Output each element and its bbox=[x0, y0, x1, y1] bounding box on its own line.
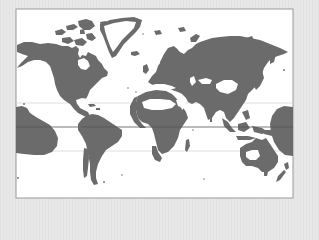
world-map bbox=[0, 0, 309, 209]
sri-lanka bbox=[210, 118, 212, 122]
map-container: World map bbox=[0, 0, 309, 209]
